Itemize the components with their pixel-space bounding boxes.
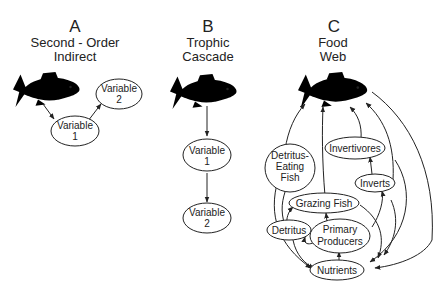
panel-c: C Food Web Detritus- Eating Fish bbox=[265, 17, 432, 280]
svg-text:2: 2 bbox=[204, 218, 210, 229]
svg-text:Primary: Primary bbox=[323, 224, 357, 235]
panel-a-letter: A bbox=[69, 17, 81, 36]
arrow-grazing-fish-to-fish bbox=[322, 107, 325, 196]
svg-text:Detritus: Detritus bbox=[272, 225, 306, 236]
panel-c-title-line-2: Web bbox=[320, 49, 347, 64]
node-invertivores: Invertivores bbox=[325, 137, 385, 159]
arrow-detritus-eating-fish-to-fish bbox=[285, 104, 305, 150]
node-inverts: Inverts bbox=[355, 174, 395, 192]
fish-icon bbox=[298, 72, 367, 108]
food-web-interaction-diagram: A Second - Order Indirect Variable 1 Var… bbox=[0, 0, 439, 292]
svg-text:Inverts: Inverts bbox=[360, 178, 390, 189]
fish-icon bbox=[13, 72, 80, 107]
panel-c-letter: C bbox=[328, 17, 340, 36]
fish-icon bbox=[170, 74, 237, 109]
panel-b-title-line-1: Trophic bbox=[187, 35, 230, 50]
node-grazing-fish: Grazing Fish bbox=[289, 193, 359, 213]
node-b-variable-2: Variable 2 bbox=[183, 203, 231, 233]
svg-text:Invertivores: Invertivores bbox=[329, 143, 381, 154]
panel-b: B Trophic Cascade Variable 1 Variable 2 bbox=[170, 17, 237, 233]
arrow-variable-1-to-variable-2 bbox=[88, 104, 101, 121]
svg-text:Variable: Variable bbox=[189, 145, 225, 156]
svg-text:Variable: Variable bbox=[101, 83, 137, 94]
node-a-variable-2: Variable 2 bbox=[96, 79, 142, 109]
node-a-variable-1: Variable 1 bbox=[51, 116, 99, 146]
link-fish-to-nutrients-outer bbox=[372, 92, 432, 240]
panel-a: A Second - Order Indirect Variable 1 Var… bbox=[13, 17, 142, 146]
node-detritus: Detritus bbox=[267, 220, 311, 240]
svg-text:1: 1 bbox=[204, 156, 210, 167]
arrow-inverts-to-invertivores bbox=[370, 157, 372, 174]
svg-text:1: 1 bbox=[72, 131, 78, 142]
svg-text:Nutrients: Nutrients bbox=[317, 265, 357, 276]
panel-a-title-line-1: Second - Order bbox=[31, 35, 121, 50]
svg-text:Fish: Fish bbox=[281, 172, 300, 183]
arrow-fish-to-nutrients bbox=[375, 240, 432, 268]
svg-text:Grazing Fish: Grazing Fish bbox=[296, 198, 353, 209]
arrow-detritus-to-nutrients bbox=[293, 240, 314, 268]
svg-text:Eating: Eating bbox=[276, 161, 304, 172]
panel-b-title-line-2: Cascade bbox=[182, 49, 233, 64]
svg-text:2: 2 bbox=[116, 94, 122, 105]
arrow-inverts-to-nutrients bbox=[384, 200, 396, 255]
node-detritus-eating-fish: Detritus- Eating Fish bbox=[265, 144, 315, 192]
svg-text:Variable: Variable bbox=[189, 207, 225, 218]
arrow-fish-to-variable-1 bbox=[43, 104, 54, 119]
svg-text:Producers: Producers bbox=[317, 236, 363, 247]
panel-b-letter: B bbox=[202, 17, 213, 36]
svg-text:Detritus-: Detritus- bbox=[271, 150, 309, 161]
panel-a-title-line-2: Indirect bbox=[54, 49, 97, 64]
panel-c-title-line-1: Food bbox=[318, 35, 348, 50]
node-primary-producers: Primary Producers bbox=[310, 219, 370, 253]
arrow-invertivores-to-fish bbox=[350, 107, 361, 139]
svg-text:Variable: Variable bbox=[57, 120, 93, 131]
node-b-variable-1: Variable 1 bbox=[183, 139, 231, 171]
arrow-primary-producers-to-inverts bbox=[372, 191, 383, 227]
node-nutrients: Nutrients bbox=[310, 260, 364, 280]
